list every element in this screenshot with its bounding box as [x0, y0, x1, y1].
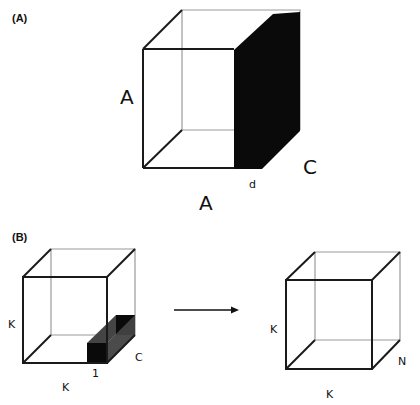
- cube-b-right-depth-label: N: [398, 355, 406, 368]
- cube-b-right-top-left-diagonal: [286, 252, 315, 280]
- transform-arrow-icon: [174, 307, 239, 314]
- panel-a-label: (A): [12, 12, 28, 24]
- cube-b-left-bottom-left-diagonal: [23, 335, 51, 363]
- cube-a-top-left-diagonal: [143, 10, 182, 49]
- cube-b-left-block-label: 1: [92, 367, 99, 380]
- cube-b-left-block-front: [87, 343, 107, 363]
- cube-b-left-height-label: K: [8, 318, 16, 331]
- cube-a-bottom-left-diagonal: [143, 130, 182, 168]
- cube-b-right-width-label: K: [326, 388, 334, 401]
- panel-b-label: (B): [12, 231, 28, 243]
- cube-a-slice: [234, 12, 300, 169]
- cube-b-right-bottom-right-diagonal: [372, 340, 400, 369]
- cube-b-left-depth-label: C: [135, 351, 143, 364]
- cube-b-left-width-label: K: [62, 381, 70, 394]
- cube-b-left: [23, 249, 135, 363]
- cube-b-right-bottom-left-diagonal: [286, 340, 315, 369]
- cube-a-slice-label: d: [249, 178, 256, 191]
- cube-a-width-label: A: [199, 191, 213, 215]
- cube-b-left-top-right-diagonal: [107, 249, 135, 277]
- cube-b-right-top-right-diagonal: [372, 252, 400, 280]
- cube-a-height-label: A: [120, 85, 134, 109]
- diagram-canvas: (A) A A C d (B) K K: [0, 0, 420, 405]
- cube-b-right: [286, 252, 400, 369]
- cube-b-right-height-label: K: [270, 323, 278, 336]
- cube-a: [143, 10, 300, 169]
- cube-b-left-top-left-diagonal: [23, 249, 51, 277]
- cube-a-depth-label: C: [303, 155, 317, 179]
